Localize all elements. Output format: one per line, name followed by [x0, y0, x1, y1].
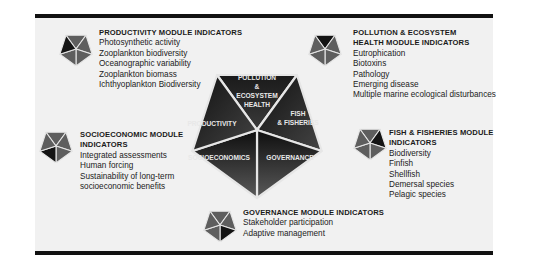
segment-label-fish: FISH — [290, 110, 305, 117]
indicator: Eutrophication — [353, 49, 496, 59]
module-title: FISH & FISHERIES MODULE — [389, 128, 493, 138]
fish-fisheries-module-icon — [352, 124, 388, 160]
indicator: Biodiversity — [389, 149, 493, 159]
module-title: SOCIOECONOMIC MODULE — [80, 130, 183, 140]
indicator: Pelagic species — [389, 190, 493, 200]
indicator: Zooplankton biomass — [99, 70, 242, 80]
pollution-module: POLLUTION & ECOSYSTEM HEALTH MODULE INDI… — [353, 28, 496, 101]
segment-label-pollution: ECOSYSTEM — [236, 92, 278, 99]
module-title: POLLUTION & ECOSYSTEM — [353, 28, 496, 38]
module-title: INDICATORS — [389, 138, 493, 148]
fish-fisheries-module: FISH & FISHERIES MODULE INDICATORS Biodi… — [389, 128, 493, 201]
indicator: Shellfish — [389, 170, 493, 180]
pollution-module-icon — [307, 30, 343, 66]
indicator: Zooplankton biodiversity — [99, 49, 242, 59]
module-title: INDICATORS — [80, 140, 183, 150]
indicator: Oceanographic variability — [99, 59, 242, 69]
segment-label-pollution: POLLUTION — [238, 74, 276, 81]
governance-module-icon — [202, 206, 238, 242]
governance-module: GOVERNANCE MODULE INDICATORS Stakeholder… — [243, 208, 384, 239]
segment-label-fish: & FISHERIES — [277, 119, 319, 126]
indicator: Adaptive management — [243, 229, 384, 239]
segment-label-governance: GOVERNANCE — [266, 154, 314, 161]
segment-label-productivity: PRODUCTIVITY — [187, 120, 237, 127]
socioeconomic-module-icon — [38, 127, 74, 163]
module-title: PRODUCTIVITY MODULE INDICATORS — [99, 28, 242, 38]
indicator: Integrated assessments — [80, 151, 183, 161]
module-title: GOVERNANCE MODULE INDICATORS — [243, 208, 384, 218]
indicator: Photosynthetic activity — [99, 38, 242, 48]
indicator: Stakeholder participation — [243, 218, 384, 228]
segment-label-socioeconomics: SOCIOECONOMICS — [188, 154, 251, 161]
indicator: Emerging disease — [353, 80, 496, 90]
socioeconomic-module: SOCIOECONOMIC MODULE INDICATORS Integrat… — [80, 130, 183, 192]
indicator: socioeconomic benefits — [80, 182, 183, 192]
segment-label-pollution: & — [255, 83, 260, 90]
segment-label-pollution: HEALTH — [244, 101, 270, 108]
indicator: Sustainability of long-term — [80, 172, 183, 182]
indicator: Demersal species — [389, 180, 493, 190]
productivity-module: PRODUCTIVITY MODULE INDICATORS Photosynt… — [99, 28, 242, 90]
indicator: Human forcing — [80, 161, 183, 171]
indicator: Biotoxins — [353, 59, 496, 69]
indicator: Multiple marine ecological disturbances — [353, 90, 496, 100]
indicator: Pathology — [353, 70, 496, 80]
indicator: Ichthyoplankton Biodiversity — [99, 80, 242, 90]
productivity-module-icon — [58, 30, 94, 66]
module-title: HEALTH MODULE INDICATORS — [353, 38, 496, 48]
indicator: Finfish — [389, 159, 493, 169]
